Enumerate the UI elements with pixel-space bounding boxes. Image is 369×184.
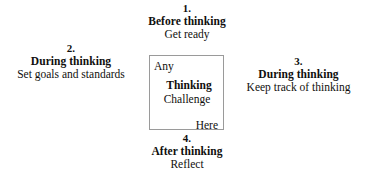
phase-number: 1. <box>117 2 257 15</box>
phase-block-before-thinking: 1. Before thinking Get ready <box>117 2 257 41</box>
box-line-challenge: Challenge <box>154 92 218 107</box>
phase-block-during-thinking-goals: 2. During thinking Set goals and standar… <box>0 42 142 81</box>
phase-title: After thinking <box>117 145 257 158</box>
phase-detail: Get ready <box>117 28 257 41</box>
phase-number: 2. <box>0 42 142 55</box>
phase-title: During thinking <box>228 68 369 81</box>
box-line-thinking: Thinking <box>154 78 218 93</box>
phase-number: 3. <box>228 55 369 68</box>
box-line-here: Here <box>154 118 218 133</box>
phase-title: Before thinking <box>117 15 257 28</box>
phase-detail: Set goals and standards <box>0 68 142 81</box>
phase-block-during-thinking-track: 3. During thinking Keep track of thinkin… <box>228 55 369 94</box>
phase-detail: Reflect <box>117 158 257 171</box>
phase-block-after-thinking: 4. After thinking Reflect <box>117 132 257 171</box>
box-line-any: Any <box>154 59 218 74</box>
diagram-canvas: 1. Before thinking Get ready 2. During t… <box>0 0 369 184</box>
phase-title: During thinking <box>0 55 142 68</box>
thinking-challenge-box: Any Thinking Challenge Here <box>149 55 224 130</box>
phase-detail: Keep track of thinking <box>228 81 369 94</box>
phase-number: 4. <box>117 132 257 145</box>
